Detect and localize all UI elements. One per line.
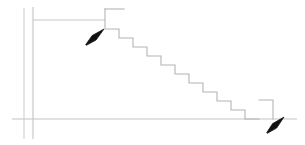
staircase-section-svg — [0, 0, 305, 145]
drawing-canvas — [0, 0, 305, 145]
canvas-background — [0, 0, 305, 145]
